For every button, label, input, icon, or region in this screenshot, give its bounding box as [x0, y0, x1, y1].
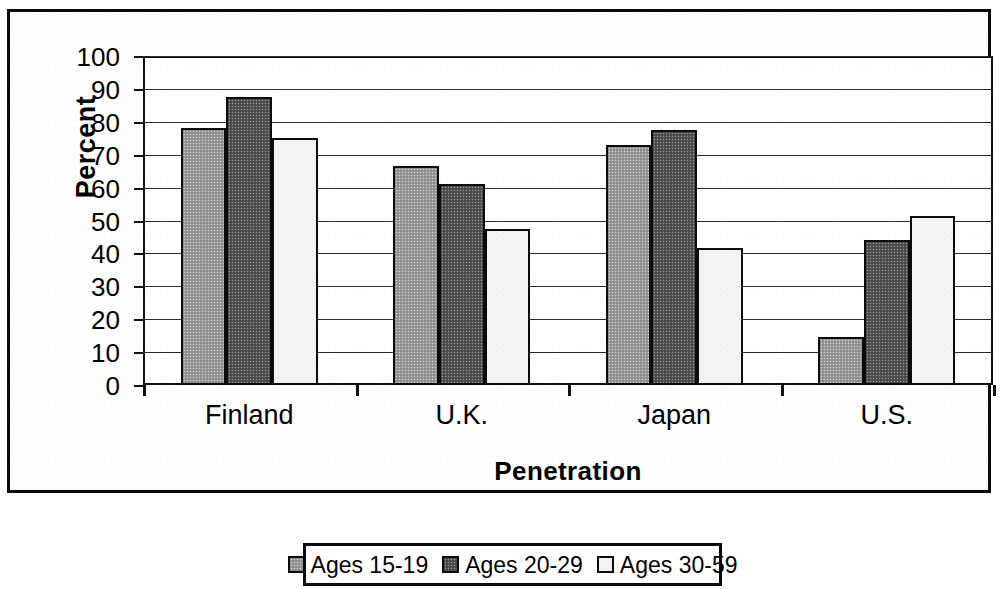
category-label-japan: Japan: [568, 400, 781, 430]
category-tick: [356, 385, 359, 396]
y-axis-tick-label: 100: [50, 44, 120, 70]
bar-japan-ages-20-29[interactable]: [651, 130, 697, 385]
legend-swatch-ages-30-59-icon: [597, 556, 614, 573]
gridline: [143, 56, 993, 57]
category-label-us: U.S.: [781, 400, 994, 430]
category-label-finland: Finland: [143, 400, 356, 430]
bar-finland-ages-15-19[interactable]: [181, 128, 227, 385]
y-axis-tick-label: 40: [50, 241, 120, 267]
y-axis-tick: 40: [134, 253, 143, 255]
legend-label: Ages 20-29: [465, 553, 583, 577]
y-axis-tick: 50: [134, 221, 143, 223]
y-axis-tick: 10: [134, 352, 143, 354]
x-axis-title: Penetration: [143, 456, 993, 487]
y-axis-tick: 70: [134, 155, 143, 157]
y-axis-tick-label: 90: [50, 77, 120, 103]
legend-swatch-ages-20-29-icon: [442, 556, 459, 573]
legend-swatch-ages-15-19-icon: [288, 556, 305, 573]
y-axis-tick-label: 20: [50, 307, 120, 333]
category-tick: [993, 385, 996, 396]
bar-uk-ages-15-19[interactable]: [393, 166, 439, 385]
y-axis-tick: 30: [134, 286, 143, 288]
bar-finland-ages-30-59[interactable]: [272, 138, 318, 385]
bar-uk-ages-30-59[interactable]: [485, 229, 531, 385]
y-axis-tick-label: 60: [50, 176, 120, 202]
y-axis-tick-label: 80: [50, 110, 120, 136]
bar-uk-ages-20-29[interactable]: [439, 184, 485, 385]
y-axis-tick: 90: [134, 89, 143, 91]
legend-entry-ages-20-29[interactable]: Ages 20-29: [442, 553, 583, 577]
bar-finland-ages-20-29[interactable]: [226, 97, 272, 385]
bar-us-ages-15-19[interactable]: [818, 337, 864, 385]
gridline: [143, 89, 993, 90]
category-tick: [143, 385, 146, 396]
y-axis-tick: 60: [134, 188, 143, 190]
y-axis-tick: 100: [134, 56, 143, 58]
bar-japan-ages-30-59[interactable]: [697, 248, 743, 385]
bar-us-ages-30-59[interactable]: [910, 216, 956, 385]
legend-label: Ages 30-59: [620, 553, 738, 577]
chart-legend: Ages 15-19Ages 20-29Ages 30-59: [303, 543, 722, 586]
legend-entry-ages-15-19[interactable]: Ages 15-19: [288, 553, 429, 577]
legend-label: Ages 15-19: [311, 553, 429, 577]
plot-area: 0102030405060708090100: [143, 56, 993, 385]
y-axis-tick-label: 0: [50, 373, 120, 399]
legend-entry-ages-30-59[interactable]: Ages 30-59: [597, 553, 738, 577]
y-axis-tick-label: 50: [50, 209, 120, 235]
y-axis-tick: 20: [134, 319, 143, 321]
category-tick: [568, 385, 571, 396]
category-label-uk: U.K.: [356, 400, 569, 430]
y-axis-tick-label: 30: [50, 274, 120, 300]
chart-figure-frame: Percent 0102030405060708090100 FinlandU.…: [7, 9, 991, 493]
bar-japan-ages-15-19[interactable]: [606, 145, 652, 385]
y-axis-tick-label: 70: [50, 143, 120, 169]
y-axis-tick: 80: [134, 122, 143, 124]
bar-us-ages-20-29[interactable]: [864, 240, 910, 385]
y-axis-tick: 0: [134, 385, 143, 387]
category-tick: [781, 385, 784, 396]
y-axis-tick-label: 10: [50, 340, 120, 366]
